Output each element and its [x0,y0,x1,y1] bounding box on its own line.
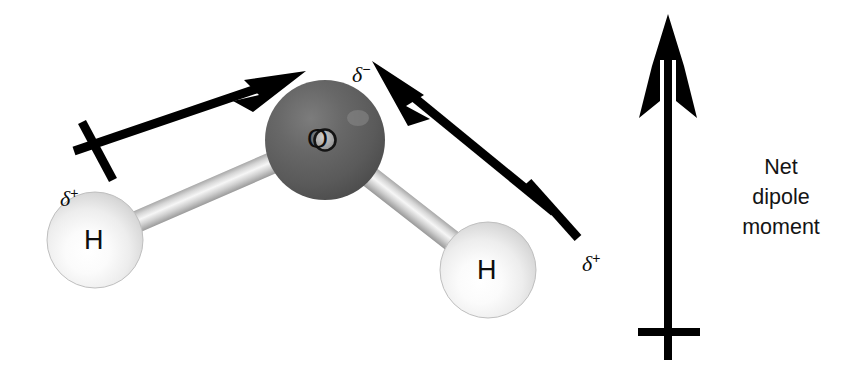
atom-label-oxygen: O [307,124,328,155]
delta-sign: + [592,250,600,266]
net-dipole-arrow [638,14,700,360]
atom-label-hydrogen-right: H [477,255,497,286]
bond-dipole-left-arrow [74,71,306,180]
atom-label-hydrogen-left: H [84,225,104,256]
delta-glyph: δ [582,251,592,276]
delta-glyph: δ [60,186,70,211]
charge-label-hydrogen-left-delta-positive: δ+ [38,160,78,238]
net-dipole-caption-line-3: moment [700,212,862,242]
net-dipole-caption-line-1: Net [700,152,862,182]
net-dipole-caption: Net dipole moment [700,152,862,242]
bond-dipole-right-arrow [372,61,578,238]
net-dipole-caption-line-2: dipole [700,182,862,212]
delta-sign: − [362,61,370,77]
delta-sign: + [70,185,78,201]
water-dipole-figure: O H H δ− δ+ δ+ Net dipole moment [0,0,862,384]
charge-label-hydrogen-right-delta-positive: δ+ [560,225,600,303]
delta-glyph: δ [352,62,362,87]
charge-label-oxygen-delta-negative: δ− [330,36,370,114]
